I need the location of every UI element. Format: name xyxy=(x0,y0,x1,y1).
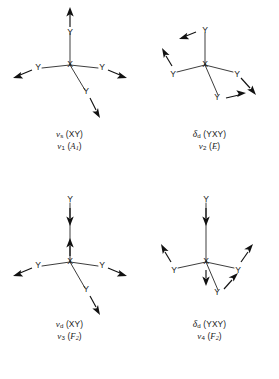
atom-label-x-center: X xyxy=(202,59,208,69)
atom-label-y-right: Y xyxy=(99,260,105,270)
displacement-arrow-top-down xyxy=(202,208,209,226)
molecule-diagram-nu4: Y Y Y Y X xyxy=(140,190,279,329)
caption-nu3: νd (XY) ν3 (F2) xyxy=(0,318,139,342)
displacement-arrow-left xyxy=(13,268,32,277)
molecule-diagram-nu3: Y Y Y Y X xyxy=(0,190,139,329)
caption-line-2: ν3 (F2) xyxy=(0,330,139,342)
atom-label-y-right: Y xyxy=(235,265,241,275)
displacement-arrow-lower xyxy=(90,98,100,118)
caption-line-2: ν4 (F2) xyxy=(140,330,279,342)
displacement-arrow-left-up xyxy=(161,244,171,262)
atom-label-y-lower: Y xyxy=(214,92,220,102)
displacement-arrow-right xyxy=(108,268,127,277)
displacement-arrow-lower-center xyxy=(226,90,246,98)
atom-label-y-lower: Y xyxy=(83,284,89,294)
caption-line-2: ν1 (A1) xyxy=(0,140,139,152)
displacement-arrow-center-down xyxy=(202,270,209,286)
displacement-arrow-upper-left xyxy=(162,48,172,66)
atom-label-x-center: X xyxy=(67,256,73,266)
displacement-arrow-center-up xyxy=(66,238,73,256)
displacement-arrow-lower-up xyxy=(224,273,238,289)
displacement-arrow-lower xyxy=(90,296,100,315)
atom-label-y-top: Y xyxy=(67,27,73,37)
molecule-diagram-nu1: Y Y Y Y X xyxy=(0,0,139,139)
displacement-arrow-up xyxy=(66,7,73,27)
caption-line-1: δd (YXY) xyxy=(140,318,279,330)
atom-label-x-center: X xyxy=(67,59,73,69)
atom-label-y-right: Y xyxy=(234,69,240,79)
caption-nu4: δd (YXY) ν4 (F2) xyxy=(140,318,279,342)
displacement-arrow-top-down xyxy=(66,208,73,226)
displacement-arrow-top-left xyxy=(179,32,196,39)
displacement-arrow-left xyxy=(13,70,32,79)
molecule-diagram-nu2: Y Y Y Y X xyxy=(140,0,279,139)
panel-nu2: Y Y Y Y X xyxy=(140,0,279,189)
caption-nu2: δd (YXY) ν2 (E) xyxy=(140,128,279,152)
atom-label-y-lower: Y xyxy=(83,86,89,96)
atom-label-y-lower: Y xyxy=(214,287,220,297)
atom-label-y-right: Y xyxy=(99,62,105,72)
atom-label-y-top: Y xyxy=(203,194,209,204)
displacement-arrow-right-up xyxy=(241,244,253,262)
displacement-arrow-right xyxy=(108,70,127,79)
atom-label-y-top: Y xyxy=(67,194,73,204)
atom-label-y-left: Y xyxy=(35,62,41,72)
caption-line-1: νs (XY) xyxy=(0,128,139,140)
atom-label-y-left: Y xyxy=(171,265,177,275)
caption-line-1: δd (YXY) xyxy=(140,128,279,140)
panel-nu1: Y Y Y Y X xyxy=(0,0,139,189)
atom-label-y-left: Y xyxy=(35,260,41,270)
panel-nu3: Y Y Y Y X xyxy=(0,190,139,379)
atom-label-y-left: Y xyxy=(170,69,176,79)
caption-line-2: ν2 (E) xyxy=(140,140,279,152)
vibrational-modes-figure: Y Y Y Y X xyxy=(0,0,279,379)
panel-nu4: Y Y Y Y X xyxy=(140,190,279,379)
caption-nu1: νs (XY) ν1 (A1) xyxy=(0,128,139,152)
atom-label-y-top: Y xyxy=(202,25,208,35)
atom-label-x-center: X xyxy=(203,256,209,266)
caption-line-1: νd (XY) xyxy=(0,318,139,330)
